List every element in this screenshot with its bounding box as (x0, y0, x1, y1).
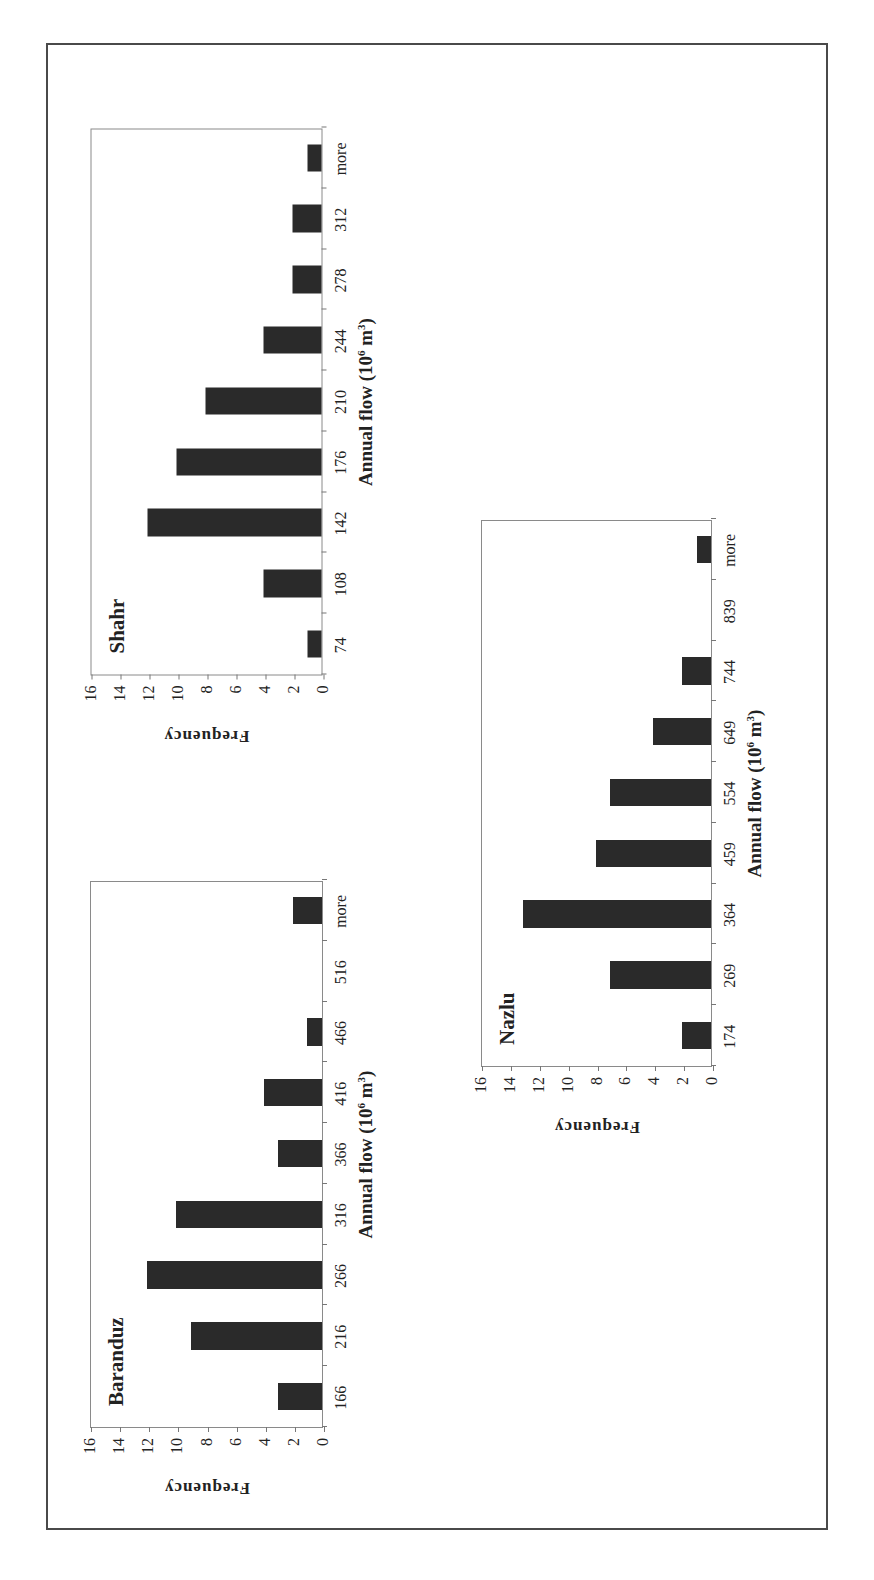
y-tick (713, 1066, 714, 1071)
y-tick-label: 2 (286, 1438, 302, 1464)
y-tick (598, 1066, 599, 1071)
histogram-bar (191, 1322, 322, 1349)
x-tick-label: 108 (332, 559, 348, 609)
x-tick (321, 187, 326, 188)
y-tick (540, 1066, 541, 1071)
station-label: Baranduz (104, 1317, 129, 1406)
y-tick-label: 14 (111, 685, 127, 711)
histogram-bar (176, 1201, 322, 1228)
histogram-bar (307, 144, 322, 171)
y-tick-label: 12 (140, 685, 156, 711)
histogram-bar (263, 326, 321, 353)
y-tick (684, 1066, 685, 1071)
x-axis-title: Annual flow (106 m3) (355, 881, 377, 1428)
x-tick (711, 640, 716, 641)
y-tick-label: 8 (198, 685, 214, 711)
x-tick (321, 126, 326, 127)
histogram-bar (610, 961, 711, 988)
y-tick (569, 1066, 570, 1071)
x-tick (322, 1365, 327, 1366)
x-tick-label: 266 (333, 1251, 349, 1301)
x-axis-title: Annual flow (106 m3) (744, 520, 766, 1067)
x-tick-label: 74 (332, 620, 348, 670)
y-tick-label: 2 (285, 685, 301, 711)
x-tick-label: 244 (332, 316, 348, 366)
histogram-bar (264, 1079, 322, 1106)
y-tick-label: 10 (560, 1077, 576, 1103)
chart-nazlu: 174269364459554649744839more024681012141… (461, 500, 782, 1137)
y-tick (207, 674, 208, 679)
x-tick-label: 416 (333, 1069, 349, 1119)
chart-shahr: 74108142176210244278312more0246810121416… (70, 108, 392, 745)
histogram-bar (523, 900, 711, 927)
y-tick (178, 674, 179, 679)
y-tick-label: 14 (502, 1077, 518, 1103)
histogram-bar (176, 448, 321, 475)
y-tick (149, 674, 150, 679)
y-tick-label: 16 (473, 1077, 489, 1103)
y-tick-label: 4 (257, 1438, 273, 1464)
y-tick (626, 1066, 627, 1071)
x-tick-label: 312 (332, 194, 348, 244)
x-tick (321, 308, 326, 309)
y-tick-label: 6 (227, 685, 243, 711)
x-tick-label: 216 (333, 1312, 349, 1362)
y-tick-label: 10 (169, 685, 185, 711)
histogram-bar (697, 536, 711, 563)
x-tick-label: 839 (722, 586, 738, 636)
y-tick-label: 0 (704, 1077, 720, 1103)
x-tick (711, 822, 716, 823)
x-tick-label: 744 (722, 647, 738, 697)
x-tick (711, 518, 716, 519)
x-tick (322, 1122, 327, 1123)
histogram-bar (205, 387, 321, 414)
histogram-bar (596, 840, 712, 867)
x-tick-label: 466 (333, 1008, 349, 1058)
plot-area (481, 520, 712, 1067)
x-tick (321, 551, 326, 552)
y-tick-label: 16 (82, 685, 98, 711)
y-tick-label: 4 (646, 1077, 662, 1103)
station-label: Nazlu (495, 993, 520, 1046)
y-tick-label: 14 (111, 1438, 127, 1464)
y-tick-label: 6 (617, 1077, 633, 1103)
histogram-bar (653, 718, 711, 745)
histogram-bar (293, 897, 322, 924)
x-tick-label: 278 (332, 255, 348, 305)
x-tick-label: 364 (722, 890, 738, 940)
y-tick (178, 1427, 179, 1432)
chart-baranduz: 166216266316366416466516more024681012141… (70, 861, 393, 1498)
y-tick (91, 674, 92, 679)
x-tick (322, 940, 327, 941)
x-tick-label: 142 (332, 498, 348, 548)
histogram-bar (682, 1022, 711, 1049)
plot-area (90, 128, 322, 675)
x-tick-label: 316 (333, 1190, 349, 1240)
histogram-bar (147, 508, 321, 535)
y-tick-label: 2 (675, 1077, 691, 1103)
y-axis-title: Frequency (147, 1478, 267, 1498)
y-tick-label: 0 (315, 1438, 331, 1464)
x-tick-label: more (333, 886, 349, 936)
histogram-bar (292, 265, 321, 292)
histogram-bar (147, 1261, 322, 1288)
x-tick (322, 1001, 327, 1002)
x-tick (711, 579, 716, 580)
x-tick (322, 1244, 327, 1245)
y-tick (482, 1066, 483, 1071)
station-label: Shahr (104, 598, 129, 653)
y-tick-label: 4 (256, 685, 272, 711)
x-tick (322, 879, 327, 880)
y-tick (265, 674, 266, 679)
y-tick (511, 1066, 512, 1071)
y-tick-label: 8 (589, 1077, 605, 1103)
x-tick-label: more (722, 525, 738, 575)
y-tick (323, 674, 324, 679)
y-tick (120, 1427, 121, 1432)
y-tick (236, 674, 237, 679)
histogram-bar (307, 630, 322, 657)
x-tick-label: 649 (722, 708, 738, 758)
y-tick (237, 1427, 238, 1432)
y-tick-label: 6 (228, 1438, 244, 1464)
y-tick (324, 1427, 325, 1432)
